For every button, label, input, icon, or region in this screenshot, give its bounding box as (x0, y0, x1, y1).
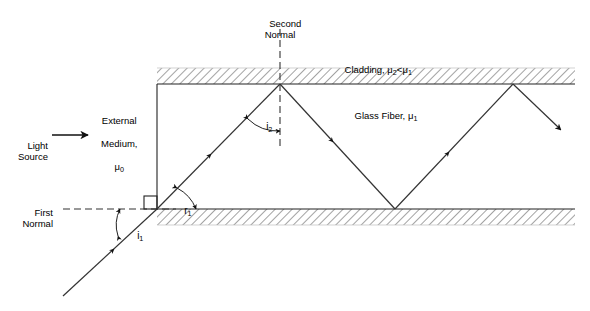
first-normal-text: First Normal (22, 207, 53, 230)
external-medium-subscript: 0 (120, 164, 124, 173)
external-medium-line1: External (102, 115, 137, 126)
external-medium-line2: Medium, (101, 138, 137, 149)
light-source-label: Light Source (0, 128, 48, 174)
second-normal-text: Second Normal (265, 18, 302, 41)
angle-label-r1: r1 (173, 194, 191, 229)
angle-r1-subscript: 1 (187, 209, 191, 218)
exit-ray-segment-4 (513, 84, 558, 127)
external-medium-label: External Medium, μ0 (75, 103, 153, 186)
angle-arc-i1 (116, 209, 120, 236)
angle-label-i2: i2 (255, 110, 272, 145)
glass-fiber-label: Glass Fiber, μ1 (344, 98, 417, 135)
refracted-ray-segment-1 (157, 84, 280, 209)
cladding-text: Cladding, (345, 64, 388, 75)
glass-fiber-sub: 1 (413, 113, 417, 122)
figure-canvas: Light Source External Medium, μ0 First N… (0, 0, 590, 311)
cladding-label: Cladding, μ2<μ1 (334, 52, 412, 89)
angle-i1-subscript: 1 (139, 234, 143, 243)
right-angle-marker (144, 196, 157, 209)
angle-label-i1: i1 (126, 219, 143, 254)
light-source-line1: Light Source (18, 140, 48, 163)
first-normal-label: First Normal (0, 195, 53, 241)
bottom-cladding-band (157, 209, 575, 225)
glass-fiber-text: Glass Fiber, (355, 110, 408, 121)
cladding-sub-1: 1 (408, 67, 412, 76)
angle-i2-subscript: 2 (268, 125, 272, 134)
second-normal-label: Second Normal (240, 6, 320, 52)
